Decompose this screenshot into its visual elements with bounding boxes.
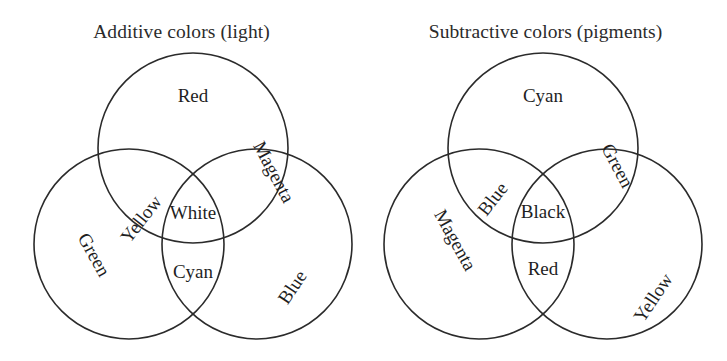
diagram-subtractive: Subtractive colors (pigments) Cyan Blue …: [364, 0, 727, 361]
diagram-additive: Additive colors (light) Red Yellow Magen…: [0, 0, 363, 361]
label-subtractive-bottom-overlap: Red: [543, 268, 574, 287]
circle-left-subtractive: [384, 149, 574, 339]
label-additive-center-overlap: White: [193, 212, 239, 231]
venn-circles-subtractive: [364, 0, 727, 361]
label-additive-top: Red: [193, 95, 224, 114]
label-subtractive-center-overlap: Black: [543, 211, 587, 230]
label-subtractive-top: Cyan: [543, 95, 583, 114]
venn-circles-additive: [0, 0, 363, 361]
venn-diagram-figure: Additive colors (light) Red Yellow Magen…: [0, 0, 727, 361]
label-additive-bottom-overlap: Cyan: [193, 271, 233, 290]
circle-right-additive: [162, 149, 352, 339]
